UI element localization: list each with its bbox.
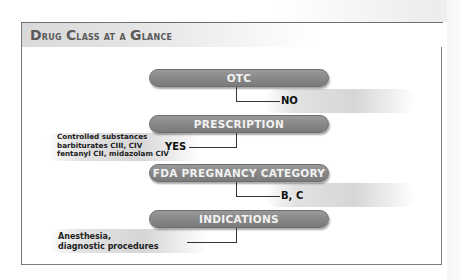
title-cap-c: C	[66, 27, 76, 43]
top-shadow-band	[0, 0, 460, 22]
fda-connector-h	[236, 196, 280, 197]
prescription-connector-v	[236, 133, 237, 147]
title-rest-3: at a	[104, 29, 126, 43]
otc-answer: NO	[281, 95, 298, 106]
prescription-pill: PRESCRIPTION	[149, 115, 329, 133]
note-line-3: fentanyl CII, midazolam CIV	[57, 150, 169, 159]
indications-connector-h	[187, 242, 237, 243]
indications-note-line-1: Anesthesia,	[58, 232, 159, 242]
title-rest-4: lance	[142, 29, 172, 43]
otc-connector-v	[236, 87, 237, 101]
diagram-title: Drug Class at a Glance	[30, 27, 172, 43]
fda-connector-v	[236, 182, 237, 196]
fda-answer: B, C	[281, 190, 303, 201]
title-rest-1: rug	[42, 29, 62, 43]
right-page-strip	[447, 0, 460, 280]
prescription-note: Controlled substances barbiturates CIII,…	[57, 133, 169, 159]
otc-connector-h	[236, 101, 280, 102]
prescription-connector-h	[189, 147, 237, 148]
prescription-label: PRESCRIPTION	[194, 118, 284, 130]
fda-pregnancy-label: FDA PREGNANCY CATEGORY	[153, 167, 326, 179]
indications-note: Anesthesia, diagnostic procedures	[58, 232, 159, 251]
indications-note-line-2: diagnostic procedures	[58, 242, 159, 252]
otc-pill: OTC	[149, 69, 329, 87]
title-cap-d: D	[30, 27, 42, 43]
indications-pill: INDICATIONS	[149, 210, 329, 228]
indications-label: INDICATIONS	[199, 213, 279, 225]
otc-label: OTC	[227, 72, 252, 84]
title-cap-g: G	[130, 27, 142, 43]
title-rest-2: lass	[76, 29, 99, 43]
fda-pregnancy-pill: FDA PREGNANCY CATEGORY	[149, 164, 329, 182]
indications-connector-v	[236, 228, 237, 242]
